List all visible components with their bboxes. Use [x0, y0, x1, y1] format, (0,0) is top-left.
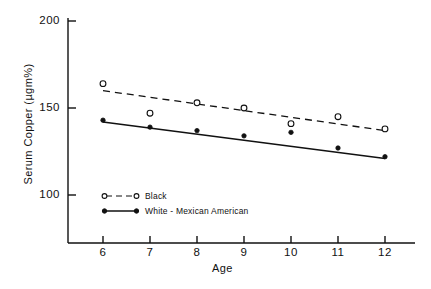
legend-label-white-mexican: White - Mexican American — [145, 206, 249, 216]
data-point — [101, 118, 105, 122]
x-tick-label-9: 9 — [224, 246, 264, 258]
series-layer — [100, 81, 388, 159]
data-point — [288, 121, 294, 127]
x-axis-title: Age — [212, 262, 233, 274]
data-point — [382, 126, 388, 132]
data-point — [335, 114, 341, 120]
data-point — [100, 81, 106, 87]
x-tick-label-6: 6 — [83, 246, 123, 258]
x-tick-label-8: 8 — [177, 246, 217, 258]
data-point — [336, 146, 340, 150]
y-tick-label-200: 200 — [16, 14, 60, 26]
chart-figure: 200 150 100 6 7 8 9 10 11 12 Serum Coppe… — [0, 0, 431, 289]
legend-marker-open-circle-left — [102, 194, 107, 199]
x-tick-label-7: 7 — [130, 246, 170, 258]
y-axis-title: Serum Copper (µgm%) — [22, 49, 34, 199]
data-point — [383, 155, 387, 159]
series-black — [100, 81, 388, 132]
legend-marker-filled-circle-right — [134, 209, 138, 213]
trend-line-white-mexican-american — [103, 122, 385, 159]
legend-label-black: Black — [145, 191, 167, 201]
data-point — [148, 125, 152, 129]
data-point — [195, 128, 199, 132]
x-tick-label-10: 10 — [271, 246, 311, 258]
data-point — [194, 100, 200, 106]
x-tick-label-11: 11 — [318, 246, 358, 258]
legend-marker-open-circle-right — [134, 194, 139, 199]
x-tick-label-12: 12 — [365, 246, 405, 258]
series-white-mexican-american — [101, 118, 387, 159]
legend-marker-filled-circle-left — [102, 209, 106, 213]
data-point — [289, 130, 293, 134]
legend-swatch-black — [102, 194, 139, 199]
data-point — [241, 105, 247, 111]
data-point — [242, 134, 246, 138]
legend-swatch-white-mexican — [102, 209, 138, 213]
data-point — [147, 110, 153, 116]
